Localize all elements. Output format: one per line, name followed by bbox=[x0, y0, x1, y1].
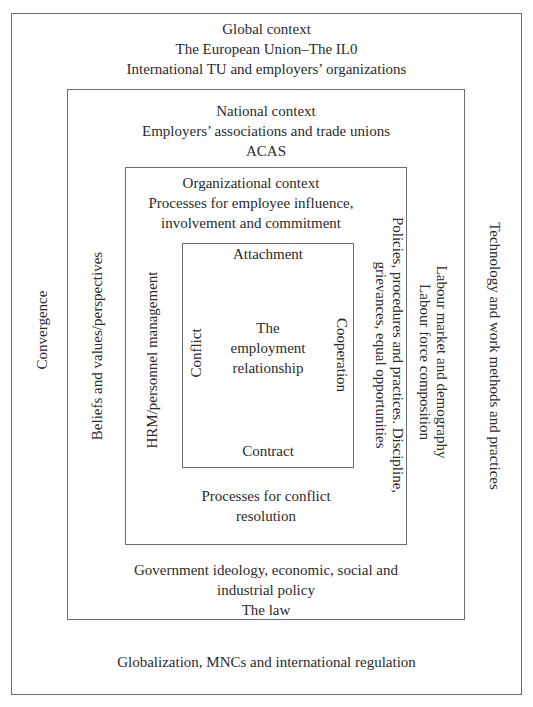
cooperation-label: Cooperation bbox=[333, 318, 350, 392]
national-context-header: National context Employers’ associations… bbox=[67, 101, 465, 161]
policies-label: Policies, procedures and practices. Disc… bbox=[372, 217, 406, 493]
contract-label: Contract bbox=[182, 441, 354, 461]
global-context-line-2: International TU and employers’ organiza… bbox=[11, 59, 522, 79]
labour-market-line-2: Labour force composition bbox=[416, 266, 433, 459]
labour-market-line-1: Labour market and demography bbox=[433, 266, 450, 459]
policies-line-1: Policies, procedures and practices. Disc… bbox=[389, 217, 406, 493]
technology-label: Technology and work methods and practice… bbox=[486, 222, 503, 490]
conflict-resolution-text: Processes for conflict resolution bbox=[125, 486, 407, 526]
conflict-label: Conflict bbox=[188, 328, 205, 377]
global-context-title: Global context bbox=[11, 19, 522, 39]
government-line-3: The law bbox=[67, 600, 465, 620]
center-line-3: relationship bbox=[182, 358, 354, 378]
national-context-line-2: ACAS bbox=[67, 141, 465, 161]
national-context-line-1: Employers’ associations and trade unions bbox=[67, 121, 465, 141]
national-context-title: National context bbox=[67, 101, 465, 121]
convergence-label: Convergence bbox=[34, 291, 51, 370]
global-context-header: Global context The European Union–The IL… bbox=[11, 19, 522, 79]
center-line-2: employment bbox=[182, 338, 354, 358]
attachment-label: Attachment bbox=[182, 244, 354, 264]
policies-line-2: grievances, equal opportunities bbox=[372, 217, 389, 493]
organizational-context-line-1: Processes for employee influence, bbox=[125, 193, 377, 213]
government-line-1: Government ideology, economic, social an… bbox=[67, 560, 465, 580]
conflict-resolution-line-2: resolution bbox=[125, 506, 407, 526]
organizational-context-line-2: involvement and commitment bbox=[125, 213, 377, 233]
beliefs-label: Beliefs and values/perspectives bbox=[89, 252, 106, 440]
hrm-label: HRM/personnel management bbox=[144, 271, 161, 448]
globalization-text: Globalization, MNCs and international re… bbox=[11, 652, 522, 672]
government-policy-text: Government ideology, economic, social an… bbox=[67, 560, 465, 620]
global-context-line-1: The European Union–The IL0 bbox=[11, 39, 522, 59]
organizational-context-header: Organizational context Processes for emp… bbox=[125, 173, 377, 233]
organizational-context-title: Organizational context bbox=[125, 173, 377, 193]
employment-relationship-center: The employment relationship bbox=[182, 318, 354, 378]
labour-market-label: Labour market and demography Labour forc… bbox=[416, 266, 450, 459]
conflict-resolution-line-1: Processes for conflict bbox=[125, 486, 407, 506]
government-line-2: industrial policy bbox=[67, 580, 465, 600]
center-line-1: The bbox=[182, 318, 354, 338]
